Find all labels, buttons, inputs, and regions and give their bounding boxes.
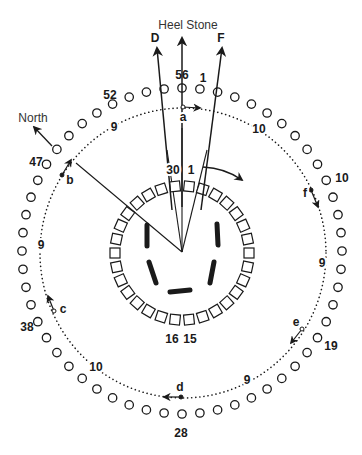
sarsen-stone <box>184 314 195 325</box>
center-line <box>182 150 207 252</box>
sarsen-stone <box>111 261 123 273</box>
distance-label: 9 <box>319 256 326 270</box>
aubrey-hole <box>231 401 239 409</box>
station-label: b <box>66 173 73 187</box>
station-label: f <box>303 186 308 200</box>
sarsen-stone <box>229 285 243 299</box>
station-point <box>300 327 304 331</box>
aubrey-hole <box>247 100 255 108</box>
sarsen-stone <box>229 207 243 221</box>
aubrey-hole <box>338 247 346 255</box>
sarsen-stone <box>170 181 181 192</box>
station-label: e <box>293 315 300 329</box>
aubrey-hole <box>108 394 116 402</box>
trilithon-mark <box>170 290 190 292</box>
sarsen-stone <box>209 188 223 202</box>
distance-label: 10 <box>252 122 266 136</box>
aubrey-hole <box>247 394 255 402</box>
aubrey-hole <box>303 348 311 356</box>
aubrey-hole-number: 19 <box>324 339 338 353</box>
station-markers: abcdef <box>48 105 318 399</box>
marker-arrow-icon <box>311 190 318 207</box>
aubrey-hole <box>19 265 27 273</box>
dotted-ring <box>40 108 326 398</box>
aubrey-hole <box>19 229 27 237</box>
trilithon-mark <box>210 262 214 283</box>
aubrey-hole-number: 56 <box>175 68 189 82</box>
sarsen-number: 16 <box>165 332 179 346</box>
trilithon-mark <box>217 224 218 245</box>
aubrey-hole <box>213 88 221 96</box>
aubrey-hole <box>196 85 204 93</box>
aubrey-hole <box>291 362 299 370</box>
aubrey-hole <box>329 301 337 309</box>
distance-label: 10 <box>89 360 103 374</box>
aubrey-hole-number: 10 <box>335 171 349 185</box>
station-point <box>179 395 183 399</box>
sarsen-stone <box>242 261 254 273</box>
aubrey-hole <box>142 406 150 414</box>
aubrey-hole-number: 52 <box>103 88 117 102</box>
station-label: c <box>60 302 67 316</box>
sightline-label: F <box>217 31 224 45</box>
sarsen-stone <box>155 310 168 323</box>
aubrey-hole <box>263 109 271 117</box>
aubrey-hole <box>18 247 26 255</box>
sightline-arrow-icon <box>34 127 52 146</box>
sarsen-stone <box>142 304 156 318</box>
stonehenge-diagram: DHeel StoneFNorth abcdef 561524710193828… <box>0 0 362 455</box>
aubrey-hole <box>313 160 321 168</box>
aubrey-hole <box>313 334 321 342</box>
aubrey-hole <box>125 93 133 101</box>
aubrey-hole <box>278 374 286 382</box>
sarsen-stone <box>184 181 195 192</box>
aubrey-hole <box>334 283 342 291</box>
station-point <box>181 105 185 109</box>
sarsen-stone <box>220 196 234 210</box>
aubrey-hole <box>329 193 337 201</box>
sarsen-stone <box>121 285 135 299</box>
sarsen-number: 1 <box>188 163 195 177</box>
aubrey-hole <box>65 132 73 140</box>
aubrey-hole <box>42 160 50 168</box>
sarsen-stone <box>244 248 254 258</box>
sarsen-stone <box>130 196 144 210</box>
sarsen-number: 30 <box>166 163 180 177</box>
sarsen-stone <box>209 304 223 318</box>
sarsen-stone <box>196 310 209 323</box>
aubrey-hole <box>93 109 101 117</box>
dotted-circle <box>40 108 326 398</box>
distance-label: 9 <box>111 120 118 134</box>
sarsen-stone <box>110 248 120 258</box>
aubrey-hole-number: 38 <box>20 320 34 334</box>
aubrey-hole <box>142 88 150 96</box>
aubrey-hole <box>27 193 35 201</box>
aubrey-hole <box>34 176 42 184</box>
aubrey-hole <box>53 145 61 153</box>
aubrey-hole <box>337 265 345 273</box>
aubrey-hole <box>78 374 86 382</box>
sarsen-stone <box>111 233 123 245</box>
aubrey-hole <box>322 176 330 184</box>
aubrey-hole <box>78 119 86 127</box>
rotation-arrow-icon <box>203 167 242 180</box>
aubrey-hole <box>337 229 345 237</box>
trilithon-mark <box>149 262 156 283</box>
aubrey-hole <box>160 409 168 417</box>
aubrey-hole <box>53 348 61 356</box>
aubrey-hole <box>213 406 221 414</box>
aubrey-hole <box>178 410 186 418</box>
sarsen-stone <box>114 219 127 232</box>
aubrey-hole <box>263 385 271 393</box>
station-point <box>60 173 64 177</box>
aubrey-hole <box>27 301 35 309</box>
aubrey-hole-number: 1 <box>200 71 207 85</box>
external-sightlines: DHeel StoneFNorth <box>18 18 224 210</box>
sarsen-stone <box>121 207 135 221</box>
sightline-label: D <box>151 31 160 45</box>
aubrey-hole-number: 47 <box>29 155 43 169</box>
aubrey-hole <box>334 211 342 219</box>
sarsen-stone <box>155 183 168 196</box>
aubrey-hole <box>42 334 50 342</box>
sarsen-stone <box>242 233 254 245</box>
